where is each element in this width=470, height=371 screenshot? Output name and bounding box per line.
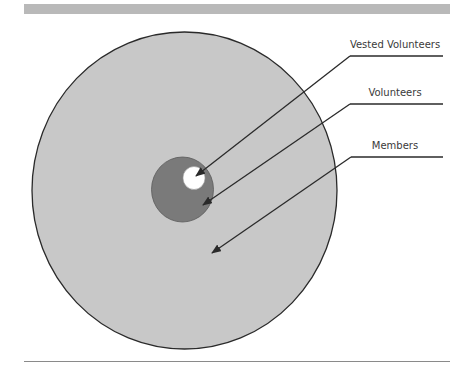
volunteers-circle bbox=[152, 157, 214, 222]
footer-rule bbox=[24, 361, 450, 362]
vested-volunteers-label: Vested Volunteers bbox=[350, 39, 440, 50]
volunteers-label: Volunteers bbox=[368, 87, 421, 98]
nested-circles-diagram: Vested Volunteers Volunteers Members bbox=[0, 0, 470, 371]
vested-volunteers-circle bbox=[183, 167, 205, 190]
members-label: Members bbox=[372, 140, 418, 151]
